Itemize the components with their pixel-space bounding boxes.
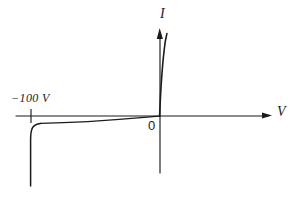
current-axis-label: I	[160, 7, 165, 21]
voltage-axis-arrowhead	[262, 113, 272, 119]
voltage-axis-label: V	[277, 105, 286, 119]
origin-label: 0	[148, 119, 155, 132]
breakdown-voltage-label: −100 V	[11, 92, 50, 104]
diode-iv-characteristic-figure: I V 0 −100 V	[0, 0, 294, 198]
forward-conduction-branch	[160, 34, 167, 117]
reverse-leakage-branch	[41, 116, 160, 123]
reverse-breakdown-branch	[31, 123, 41, 186]
current-axis-arrowhead	[157, 28, 163, 39]
